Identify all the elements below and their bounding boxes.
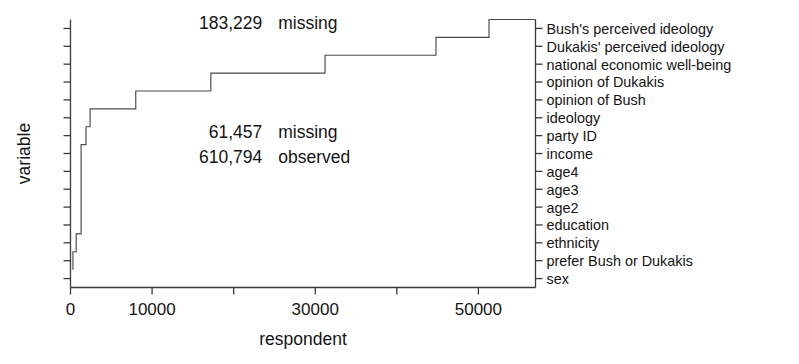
y-variable-label: Bush's perceived ideology — [547, 21, 715, 37]
y-variable-label: education — [547, 217, 609, 233]
x-axis-title: respondent — [259, 329, 347, 349]
annotation-number: 610,794 — [199, 147, 263, 167]
missingness-step-chart: 0100003000050000 sexprefer Bush or Dukak… — [0, 0, 799, 364]
y-variable-label: ethnicity — [547, 235, 601, 251]
annotation-label: observed — [278, 147, 350, 167]
y-axis-ticks-right — [536, 28, 543, 278]
y-variable-label: age3 — [547, 182, 579, 198]
y-variable-label: age4 — [547, 164, 579, 180]
y-variable-label: sex — [547, 271, 570, 287]
x-tick-label: 10000 — [128, 300, 175, 319]
x-axis-ticks — [71, 288, 479, 295]
y-variable-label: age2 — [547, 200, 579, 216]
step-data-line — [73, 20, 536, 270]
x-tick-label: 50000 — [455, 300, 502, 319]
chart-canvas: 0100003000050000 sexprefer Bush or Dukak… — [0, 0, 799, 364]
y-variable-label: Dukakis' perceived ideology — [547, 39, 726, 55]
y-variable-label: opinion of Bush — [547, 92, 646, 108]
x-tick-label: 0 — [66, 300, 75, 319]
y-variable-label: income — [547, 146, 593, 162]
y-axis-title: variable — [14, 123, 34, 184]
y-variable-label: opinion of Dukakis — [547, 74, 665, 90]
annotation-label: missing — [278, 122, 337, 142]
y-variable-label: ideology — [547, 110, 601, 126]
annotation-number: 61,457 — [209, 122, 263, 142]
y-variable-label: national economic well-being — [547, 57, 732, 73]
y-axis-ticks-left — [64, 28, 71, 278]
x-axis-tick-labels: 0100003000050000 — [66, 300, 502, 319]
x-tick-label: 30000 — [292, 300, 339, 319]
annotation-number: 183,229 — [199, 13, 262, 33]
annotation-label: missing — [278, 13, 337, 33]
y-axis-variable-labels: sexprefer Bush or Dukakisethnicityeducat… — [547, 21, 732, 287]
y-variable-label: prefer Bush or Dukakis — [547, 253, 693, 269]
y-variable-label: party ID — [547, 128, 597, 144]
chart-annotations: 183,229missing61,457missing610,794observ… — [199, 13, 350, 167]
